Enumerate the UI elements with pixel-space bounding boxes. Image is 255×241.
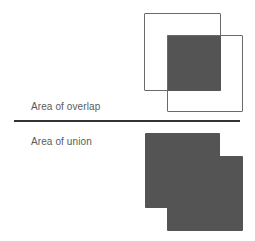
overlap-box-b	[167, 35, 243, 112]
overlap-label: Area of overlap	[31, 101, 100, 113]
union-label: Area of union	[31, 136, 92, 148]
divider-line	[14, 120, 240, 122]
union-box-b-fill	[167, 156, 243, 231]
